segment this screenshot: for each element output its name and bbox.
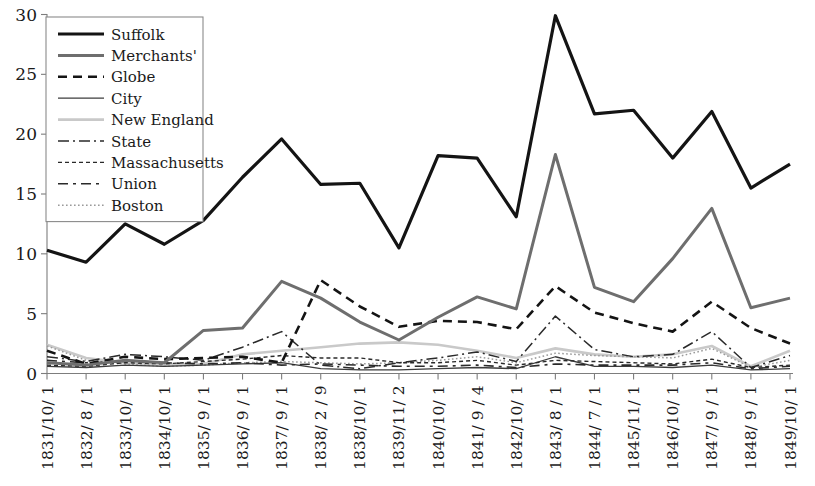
legend-label: Massachusetts — [111, 154, 224, 172]
x-axis-tick-label: 1842/10/ 1 — [508, 386, 526, 470]
x-axis-tick-label: 1848/ 9 / 1 — [742, 386, 760, 470]
x-axis-tick-label: 1833/10/ 1 — [117, 386, 135, 470]
x-axis-tick-label: 1838/ 2 / 9 — [312, 386, 330, 470]
x-axis-tick-label: 1841/ 9 / 4 — [469, 385, 487, 470]
x-axis-tick-label: 1846/10/ 1 — [664, 386, 682, 470]
x-axis-tick-label: 1832/ 8 / 1 — [78, 386, 96, 470]
x-axis-tick-label: 1845/11/ 1 — [625, 386, 643, 470]
y-axis-tick-label: 5 — [26, 304, 37, 324]
x-axis-tick-label: 1839/11/ 2 — [390, 386, 408, 470]
y-axis-tick-label: 25 — [15, 64, 37, 84]
x-axis-tick-label: 1840/10/ 1 — [430, 386, 448, 470]
x-axis-tick-label: 1844/ 7 / 1 — [586, 386, 604, 470]
line-chart-figure: 051015202530 1831/10/ 11832/ 8 / 11833/1… — [0, 0, 815, 486]
legend-label: New England — [111, 111, 214, 129]
x-axis-tick-label: 1847/ 9 / 1 — [703, 386, 721, 470]
x-axis-tick-label: 1834/10/ 1 — [156, 386, 174, 470]
y-axis: 051015202530 — [15, 5, 47, 384]
legend-label: Globe — [111, 68, 155, 86]
x-axis-tick-label: 1849/10/ 1 — [782, 386, 800, 470]
chart-canvas: 051015202530 1831/10/ 11832/ 8 / 11833/1… — [0, 0, 815, 486]
x-axis-tick-label: 1835/ 9 / 1 — [195, 386, 213, 470]
y-axis-tick-label: 15 — [15, 184, 37, 204]
y-axis-tick-label: 0 — [26, 364, 37, 384]
y-axis-tick-label: 20 — [15, 124, 37, 144]
y-axis-tick-label: 30 — [15, 5, 37, 25]
legend-label: State — [111, 133, 151, 151]
legend-label: Merchants' — [111, 47, 197, 65]
x-axis-tick-label: 1838/10/ 1 — [351, 386, 369, 470]
legend-label: Boston — [111, 197, 164, 215]
y-axis-tick-label: 10 — [15, 244, 37, 264]
chart-legend: SuffolkMerchants'GlobeCityNew EnglandSta… — [46, 17, 224, 222]
x-axis-tick-label: 1843/ 8 / 1 — [547, 386, 565, 470]
x-axis-tick-label: 1836/ 9 / 1 — [234, 386, 252, 470]
legend-label: Suffolk — [111, 26, 165, 44]
legend-label: City — [111, 90, 142, 108]
x-axis-tick-label: 1837/ 9 / 1 — [273, 386, 291, 470]
x-axis-tick-label: 1831/10/ 1 — [39, 386, 57, 470]
legend-label: Union — [111, 175, 157, 193]
x-axis: 1831/10/ 11832/ 8 / 11833/10/ 11834/10/ … — [39, 374, 800, 470]
